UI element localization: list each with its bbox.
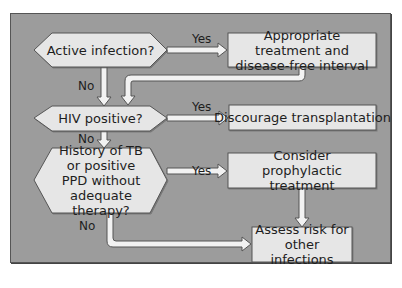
decision-hiv-positive-text: HIV positive? xyxy=(40,106,161,131)
edge-label-no-2: No xyxy=(78,132,94,146)
outcome-discourage-transplantation-text: Discourage transplantation xyxy=(229,105,376,130)
edge-label-yes-2: Yes xyxy=(192,100,211,114)
outcome-assess-risk-text: Assess risk for other infections xyxy=(254,227,350,262)
arrow-no-3 xyxy=(107,213,251,251)
edge-label-yes-1: Yes xyxy=(192,32,211,46)
outcome-appropriate-treatment-text: Appropriate treatment and disease-free i… xyxy=(232,33,372,67)
decision-history-tb-text: History of TB or positive PPD without ad… xyxy=(52,148,150,213)
outcome-consider-prophylactic-text: Consider prophylactic treatment xyxy=(232,153,372,188)
decision-active-infection-text: Active infection? xyxy=(40,33,161,67)
edge-label-no-1: No xyxy=(78,79,94,93)
edge-label-yes-3: Yes xyxy=(192,164,211,178)
arrow-return-1 xyxy=(121,67,305,105)
edge-label-no-3: No xyxy=(79,219,95,233)
arrow-no-1 xyxy=(97,67,111,106)
